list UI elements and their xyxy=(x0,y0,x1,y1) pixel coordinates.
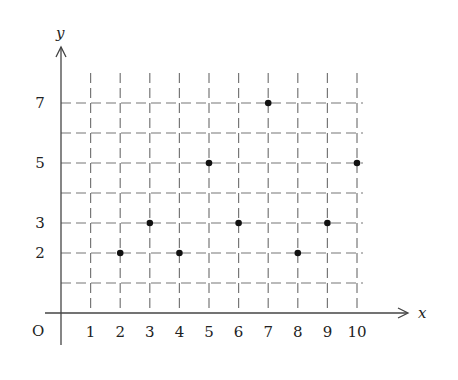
scatter-chart: 123456789102357 x y O xyxy=(0,0,458,380)
x-tick-label: 3 xyxy=(145,323,155,341)
y-axis-label: y xyxy=(55,24,65,42)
x-tick-label: 9 xyxy=(323,323,333,341)
y-tick-label: 7 xyxy=(35,94,45,112)
data-point xyxy=(295,250,302,257)
data-point xyxy=(117,250,124,257)
data-point xyxy=(206,160,213,167)
axes xyxy=(45,47,408,345)
x-tick-label: 6 xyxy=(234,323,244,341)
y-tick-label: 2 xyxy=(35,244,45,262)
x-tick-label: 10 xyxy=(347,323,366,341)
x-tick-label: 5 xyxy=(204,323,214,341)
y-tick-label: 5 xyxy=(35,154,45,172)
x-tick-label: 4 xyxy=(175,323,185,341)
data-point xyxy=(354,160,361,167)
x-tick-label: 2 xyxy=(115,323,125,341)
x-axis-label: x xyxy=(418,304,427,322)
data-point xyxy=(176,250,183,257)
tick-labels: 123456789102357 xyxy=(35,94,366,341)
x-tick-label: 7 xyxy=(263,323,273,341)
data-point xyxy=(235,220,242,227)
data-point xyxy=(265,100,272,107)
origin-label: O xyxy=(32,322,44,340)
y-tick-label: 3 xyxy=(35,214,45,232)
x-tick-label: 8 xyxy=(293,323,303,341)
data-point xyxy=(324,220,331,227)
grid-lines xyxy=(61,73,363,311)
x-tick-label: 1 xyxy=(86,323,96,341)
data-point xyxy=(147,220,154,227)
